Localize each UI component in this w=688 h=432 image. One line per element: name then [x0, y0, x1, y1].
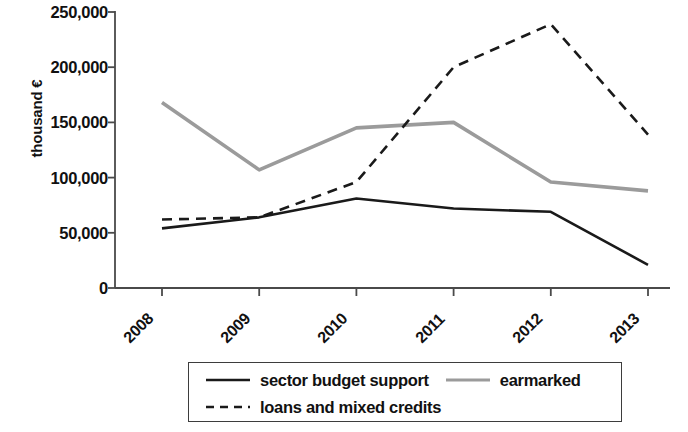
series-line-earmarked	[162, 103, 648, 191]
series-line-sector-budget-support	[162, 199, 648, 265]
legend-label: sector budget support	[260, 371, 429, 390]
dashed-black-line-swatch	[205, 400, 251, 414]
legend-label: loans and mixed credits	[260, 398, 441, 417]
legend-item-loans-and-mixed-credits: loans and mixed credits	[189, 398, 441, 417]
solid-gray-line-swatch	[445, 373, 491, 387]
legend-label: earmarked	[500, 371, 581, 390]
legend-row: loans and mixed credits	[189, 393, 621, 421]
legend-item-earmarked: earmarked	[429, 371, 581, 390]
solid-black-line-swatch	[205, 373, 251, 387]
line-chart: thousand € 050,000100,000150,000200,0002…	[0, 0, 688, 432]
legend: sector budget support earmarked loans an…	[188, 362, 622, 422]
series-line-loans-and-mixed-credits	[162, 24, 648, 219]
legend-item-sector-budget-support: sector budget support	[189, 371, 429, 390]
legend-row: sector budget support earmarked	[189, 366, 621, 394]
